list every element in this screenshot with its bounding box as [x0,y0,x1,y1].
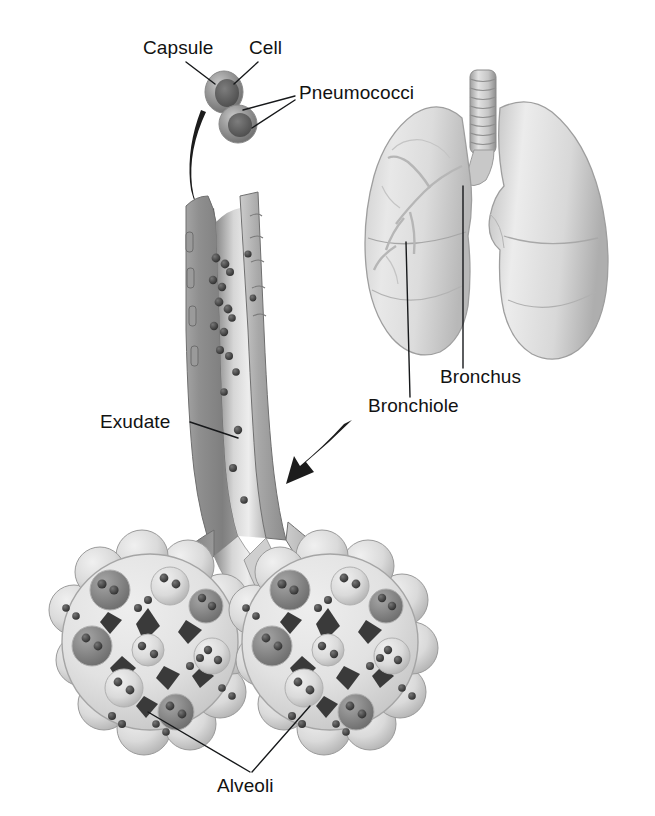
figure-root: Capsule Cell Pneumococci Bronchus Bronch… [0,0,655,816]
label-exudate: Exudate [100,411,170,432]
label-capsule: Capsule [143,37,213,58]
pneumonia-illustration: Capsule Cell Pneumococci Bronchus Bronch… [0,0,655,816]
pneumococcus-lower [219,105,257,143]
label-bronchus: Bronchus [440,366,521,387]
label-bronchiole: Bronchiole [368,395,459,416]
label-alveoli: Alveoli [217,775,274,796]
label-cell: Cell [249,37,282,58]
label-pneumococci: Pneumococci [299,82,414,103]
